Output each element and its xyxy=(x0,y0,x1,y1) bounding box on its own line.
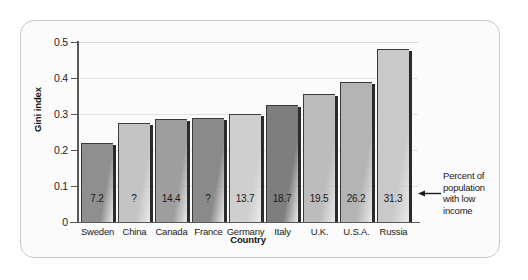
bar-shadow xyxy=(150,125,153,222)
bar-shadow xyxy=(261,116,264,222)
annotation-line: Percent of xyxy=(443,170,505,182)
bar[interactable] xyxy=(192,118,224,222)
left-arrow-icon xyxy=(418,189,442,198)
annotation-line: with low xyxy=(443,193,505,205)
bar-shadow xyxy=(409,51,412,222)
bar-value-label: 31.3 xyxy=(377,193,409,204)
x-axis-line xyxy=(70,222,420,224)
bar-shadow xyxy=(187,121,190,222)
bar-value-label: ? xyxy=(192,193,224,204)
bar-value-label: 14.4 xyxy=(155,193,187,204)
chart-screenshot: 0.5 0.4 0.3 0.2 0.1 0 7.2?14.4?13.7 xyxy=(0,0,528,280)
bar-shadow xyxy=(372,84,375,222)
bar-shadow xyxy=(113,145,116,222)
y-tick-label: 0.1 xyxy=(28,181,68,191)
bar-value-label: 26.2 xyxy=(340,193,372,204)
bar-value-label: 19.5 xyxy=(303,193,335,204)
y-axis-line xyxy=(77,41,79,223)
x-tick-label: Russia xyxy=(368,226,419,237)
gridline xyxy=(78,78,418,79)
gridline xyxy=(78,42,418,43)
bar-value-label: ? xyxy=(118,193,150,204)
bar-value-label: 18.7 xyxy=(266,193,298,204)
bar[interactable] xyxy=(81,143,113,222)
bar[interactable] xyxy=(155,119,187,222)
y-tick-label: 0 xyxy=(28,217,68,227)
bar-value-label: 13.7 xyxy=(229,193,261,204)
bar[interactable] xyxy=(118,123,150,222)
bar-shadow xyxy=(335,96,338,222)
bar-shadow xyxy=(224,120,227,222)
bar-value-label: 7.2 xyxy=(81,193,113,204)
y-tick-label: 0.5 xyxy=(28,37,68,47)
annotation-line: income xyxy=(443,205,505,217)
bar[interactable] xyxy=(229,114,261,222)
annotation-line: population xyxy=(443,182,505,194)
plot-area: 7.2?14.4?13.718.719.526.231.3 xyxy=(78,42,418,222)
bar-value-explanation: Percent of population with low income xyxy=(443,170,505,216)
y-axis-title: Gini index xyxy=(32,70,43,150)
bar[interactable] xyxy=(266,105,298,222)
bar-shadow xyxy=(298,107,301,222)
